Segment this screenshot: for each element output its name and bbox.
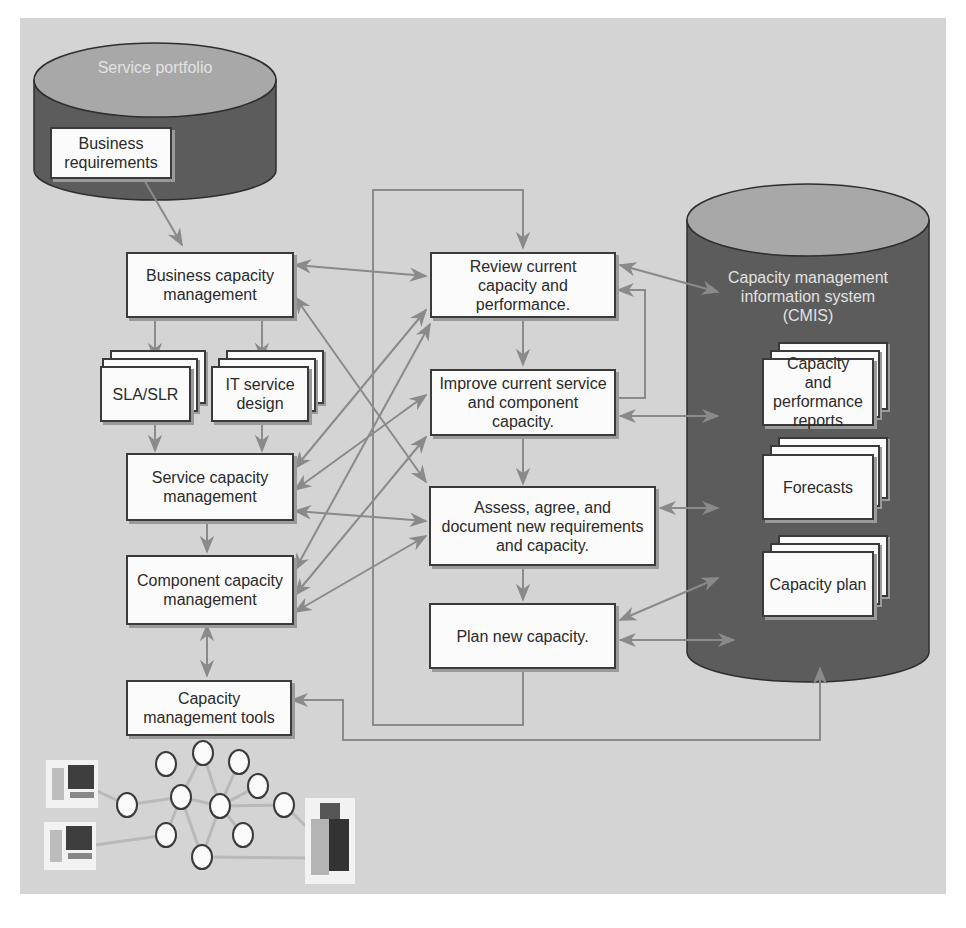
service-capacity-management-box[interactable]: Service capacity management	[126, 453, 294, 521]
capacity-plan-doc[interactable]: Capacity plan	[762, 551, 874, 617]
component-capacity-management-box[interactable]: Component capacity management	[126, 555, 294, 625]
workstation-icon	[44, 822, 96, 870]
review-capacity-box[interactable]: Review current capacity and performance.	[430, 252, 616, 318]
business-capacity-management-box[interactable]: Business capacity management	[126, 252, 294, 318]
sla-slr-box[interactable]: SLA/SLR	[100, 366, 191, 422]
improve-capacity-box[interactable]: Improve current service and component ca…	[430, 369, 616, 436]
workstation-icon	[46, 760, 98, 808]
service-portfolio-label: Service portfolio	[55, 58, 255, 77]
plan-new-capacity-box[interactable]: Plan new capacity.	[429, 603, 616, 669]
capacity-management-tools-box[interactable]: Capacity management tools	[126, 680, 292, 736]
assess-requirements-box[interactable]: Assess, agree, and document new requirem…	[429, 486, 656, 566]
network-graph	[95, 741, 310, 869]
server-icon	[305, 798, 355, 884]
diagram-canvas: Service portfolio Business requirements …	[0, 0, 966, 928]
it-service-design-box[interactable]: IT service design	[211, 366, 309, 422]
cmis-label: Capacity management information system (…	[717, 268, 899, 325]
capacity-performance-reports-doc[interactable]: Capacity and performance reports	[762, 358, 874, 426]
forecasts-doc[interactable]: Forecasts	[762, 454, 874, 520]
business-requirements-box[interactable]: Business requirements	[50, 127, 172, 179]
